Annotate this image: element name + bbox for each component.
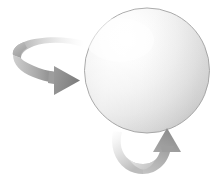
left-arrow-head-icon <box>54 66 80 95</box>
rotating-sphere-illustration <box>0 0 216 181</box>
sphere <box>85 8 210 133</box>
sphere-highlight <box>86 18 154 62</box>
bottom-arrow-head-joint <box>161 146 174 152</box>
left-arrow-head-joint <box>48 71 54 84</box>
left-rotation-arrow <box>13 37 84 95</box>
bottom-rotation-arrow <box>112 128 181 174</box>
figure-canvas: Sphere with two curved rotation arrows <box>0 0 216 181</box>
